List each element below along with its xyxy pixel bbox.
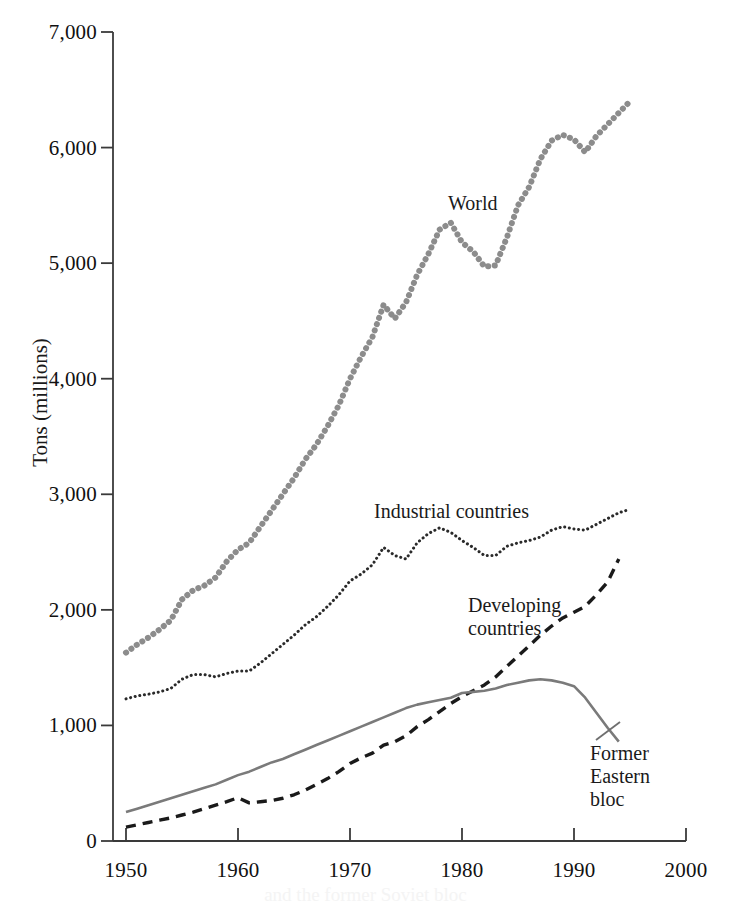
x-tick-1990: 1990: [553, 858, 596, 883]
series-lines: [126, 101, 630, 827]
y-tick-0: 0: [0, 829, 97, 854]
series-label-eastern: Former Eastern bloc: [590, 742, 650, 812]
series-line-world: [126, 101, 630, 652]
x-tick-1950: 1950: [105, 858, 148, 883]
x-tick-1980: 1980: [441, 858, 484, 883]
series-label-developing: Developing countries: [468, 594, 561, 640]
chart-figure: 7,000 6,000 5,000 4,000 3,000 2,000 1,00…: [0, 0, 731, 906]
y-tick-1000: 1,000: [0, 713, 97, 738]
y-tick-7000: 7,000: [0, 20, 97, 45]
y-tick-6000: 6,000: [0, 136, 97, 161]
y-axis-title: Tons (millions): [28, 303, 53, 503]
x-tick-2000: 2000: [665, 858, 708, 883]
x-tick-1970: 1970: [329, 858, 372, 883]
series-line-former-eastern-bloc: [126, 679, 619, 812]
y-tick-5000: 5,000: [0, 251, 97, 276]
y-tick-2000: 2,000: [0, 598, 97, 623]
series-label-world: World: [448, 192, 498, 215]
x-tick-1960: 1960: [217, 858, 260, 883]
series-label-industrial: Industrial countries: [374, 500, 529, 523]
figure-caption: and the former Soviet bloc: [0, 884, 731, 906]
axis-lines: [101, 32, 686, 841]
